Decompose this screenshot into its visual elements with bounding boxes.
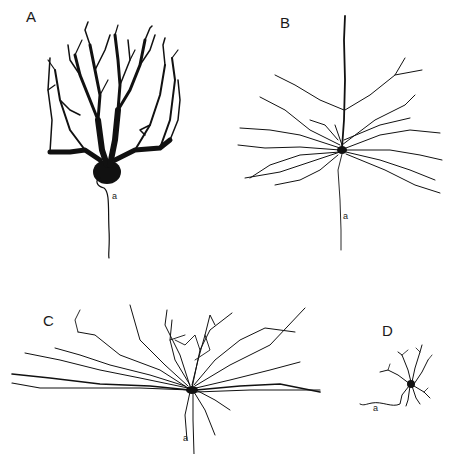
panel-a: A a (0, 0, 230, 270)
axon-label-b: a (343, 211, 348, 221)
purkinje-cell-drawing (0, 0, 230, 270)
axon-label-d: a (373, 403, 378, 413)
axon-label-c: a (183, 433, 188, 443)
axon-label-a: a (112, 191, 117, 201)
panel-c: C a (0, 280, 340, 454)
wide-field-neuron-drawing (0, 280, 340, 454)
pyramidal-cell-drawing (230, 0, 455, 270)
small-neuron-drawing (340, 300, 455, 430)
panel-b: B a (230, 0, 455, 270)
panel-d: D a (340, 300, 455, 430)
